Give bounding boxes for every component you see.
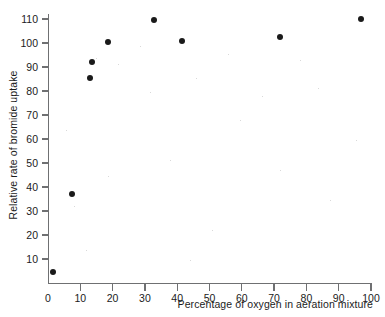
scan-speck [212,230,213,231]
scan-speck [280,170,281,171]
y-axis-line [48,14,49,284]
x-tick-label: 70 [259,293,289,304]
x-tick-label: 50 [195,293,225,304]
x-tick-label: 40 [162,293,192,304]
y-tick-mark [42,258,49,259]
x-tick-label: 60 [227,293,257,304]
x-tick-label: 20 [98,293,128,304]
data-point [87,75,93,81]
x-tick-mark [338,284,339,291]
y-tick-label: 10 [14,254,38,264]
y-tick-label: 20 [14,230,38,240]
y-tick-label: 90 [14,62,38,72]
x-tick-label: 100 [356,293,385,304]
x-tick-mark [209,284,210,291]
data-point [277,34,283,40]
scan-speck [190,260,191,261]
scan-speck [330,200,331,201]
y-tick-label: 100 [14,38,38,48]
y-tick-label: 50 [14,158,38,168]
y-tick-mark [42,114,49,115]
x-tick-mark [370,284,371,291]
data-point [89,59,95,65]
y-tick-mark [42,66,49,67]
scan-speck [170,160,171,161]
y-tick-mark [42,18,49,19]
scan-speck [66,130,67,131]
x-tick-label: 0 [33,293,63,304]
scan-speck [108,176,109,177]
x-tick-mark [273,284,274,291]
y-tick-mark [42,210,49,211]
y-tick-mark [42,90,49,91]
y-tick-mark [42,138,49,139]
scan-speck [262,96,263,97]
scan-speck [140,46,141,47]
scan-speck [86,250,87,251]
x-tick-mark [241,284,242,291]
x-tick-mark [306,284,307,291]
data-point [105,39,111,45]
y-tick-label: 60 [14,134,38,144]
data-point [151,17,157,23]
x-tick-label: 30 [130,293,160,304]
scan-speck [74,206,75,207]
x-tick-label: 80 [291,293,321,304]
y-tick-label: 70 [14,110,38,120]
x-tick-mark [144,284,145,291]
data-point [69,191,75,197]
scan-speck [318,88,319,89]
x-tick-label: 90 [324,293,354,304]
x-tick-mark [177,284,178,291]
y-tick-label: 40 [14,182,38,192]
scan-speck [118,64,119,65]
scan-speck [356,140,357,141]
y-tick-label: 80 [14,86,38,96]
scan-speck [300,60,301,61]
scan-speck [196,78,197,79]
x-tick-mark [112,284,113,291]
data-point [358,16,364,22]
data-point [179,38,185,44]
scan-speck [228,54,229,55]
y-tick-mark [42,186,49,187]
y-tick-label: 30 [14,206,38,216]
scan-speck [96,58,97,59]
x-tick-label: 10 [65,293,95,304]
scan-speck [240,120,241,121]
y-tick-mark [42,162,49,163]
y-tick-mark [42,234,49,235]
x-tick-mark [80,284,81,291]
y-tick-label: 110 [14,14,38,24]
y-tick-mark [42,42,49,43]
data-point [50,269,56,275]
scan-speck [150,92,151,93]
